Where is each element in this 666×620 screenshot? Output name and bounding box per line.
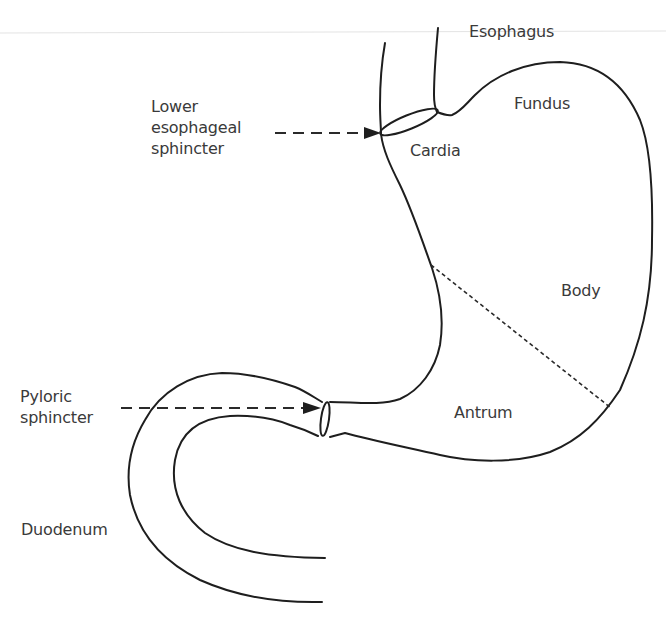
esophagus-right-wall bbox=[434, 28, 438, 112]
label-body: Body bbox=[561, 280, 601, 301]
lesser-curvature bbox=[330, 134, 442, 403]
duodenum-inner-wall bbox=[174, 416, 325, 558]
label-duodenum: Duodenum bbox=[21, 519, 108, 540]
label-esophagus: Esophagus bbox=[469, 21, 554, 42]
les-arrow-head-icon bbox=[364, 127, 381, 139]
pyloric-arrow-head-icon bbox=[303, 402, 321, 414]
label-lower-esophageal-sphincter: Lower esophageal sphincter bbox=[151, 96, 241, 159]
greater-curvature bbox=[330, 62, 652, 461]
stomach-diagram: Esophagus Fundus Cardia Body Antrum Lowe… bbox=[0, 0, 666, 620]
label-antrum: Antrum bbox=[454, 402, 512, 423]
pyloric-sphincter-ring bbox=[319, 402, 332, 437]
label-fundus: Fundus bbox=[514, 93, 570, 114]
lower-esophageal-sphincter-ring bbox=[378, 104, 441, 140]
label-pyloric-sphincter: Pyloric sphincter bbox=[20, 386, 93, 428]
top-rule bbox=[0, 31, 666, 33]
esophagus-left-wall bbox=[380, 43, 385, 134]
label-cardia: Cardia bbox=[410, 140, 460, 161]
